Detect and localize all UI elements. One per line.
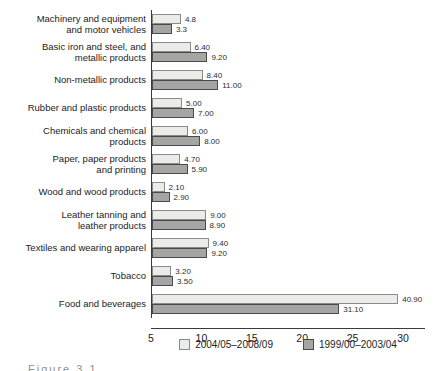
bar-value-label: 8.90 <box>210 221 226 230</box>
bar-value-label: 8.40 <box>207 71 223 80</box>
bar-series1 <box>152 238 209 248</box>
plot-cell: 4.705.90 <box>151 150 434 178</box>
bar-value-label: 6.40 <box>195 43 211 52</box>
bar-value-label: 9.40 <box>213 239 229 248</box>
chart-area: Machinery and equipmentand motor vehicle… <box>0 10 434 318</box>
category-label: Rubber and plastic products <box>0 102 151 114</box>
bar-value-label: 5.90 <box>192 165 208 174</box>
bar-series1 <box>152 42 191 52</box>
bar-line: 3.3 <box>152 24 434 34</box>
category-label: Leather tanning andleather products <box>0 209 151 232</box>
bar-line: 6.00 <box>152 126 434 136</box>
category-row: Food and beverages40.9031.10 <box>0 290 434 318</box>
legend-label: 2004/05–2008/09 <box>195 339 273 350</box>
bar-series1 <box>152 266 171 276</box>
bar-value-label: 8.00 <box>204 137 220 146</box>
bar-series1 <box>152 154 180 164</box>
category-row: Paper, paper productsand printing4.705.9… <box>0 150 434 178</box>
category-label: Textiles and wearing apparel <box>0 242 151 254</box>
chart-rows: Machinery and equipmentand motor vehicle… <box>0 10 434 318</box>
bar-value-label: 5.00 <box>186 99 202 108</box>
bar-value-label: 4.8 <box>185 15 196 24</box>
category-row: Machinery and equipmentand motor vehicle… <box>0 10 434 38</box>
legend-item: 1999/00–2003/04 <box>303 339 397 350</box>
category-label: Non-metallic products <box>0 74 151 86</box>
bar-value-label: 2.90 <box>174 193 190 202</box>
category-label: Machinery and equipmentand motor vehicle… <box>0 13 151 36</box>
plot-cell: 9.008.90 <box>151 206 434 234</box>
legend-label: 1999/00–2003/04 <box>319 339 397 350</box>
bar-value-label: 3.3 <box>176 25 187 34</box>
category-row: Rubber and plastic products5.007.00 <box>0 94 434 122</box>
bar-series2 <box>152 24 172 34</box>
bar-series2 <box>152 108 194 118</box>
category-row: Non-metallic products8.4011.00 <box>0 66 434 94</box>
bar-value-label: 4.70 <box>184 155 200 164</box>
bar-value-label: 31.10 <box>343 305 363 314</box>
category-row: Basic iron and steel, andmetallic produc… <box>0 38 434 66</box>
bar-line: 9.40 <box>152 238 434 248</box>
plot-cell: 40.9031.10 <box>151 290 434 318</box>
plot-cell: 2.102.90 <box>151 178 434 206</box>
bar-value-label: 2.10 <box>169 183 185 192</box>
plot-cell: 3.203.50 <box>151 262 434 290</box>
chart-legend: 2004/05–2008/091999/00–2003/04 <box>151 339 425 350</box>
bar-series2 <box>152 52 207 62</box>
bar-line: 6.40 <box>152 42 434 52</box>
bar-line: 7.00 <box>152 108 434 118</box>
bar-value-label: 11.00 <box>222 81 241 90</box>
bar-line: 2.10 <box>152 182 434 192</box>
bar-value-label: 6.00 <box>192 127 208 136</box>
bar-series1 <box>152 182 165 192</box>
bar-series2 <box>152 220 206 230</box>
bar-value-label: 9.20 <box>211 53 227 62</box>
bar-line: 2.90 <box>152 192 434 202</box>
category-label: Food and beverages <box>0 298 151 310</box>
bar-series2 <box>152 136 200 146</box>
bar-line: 5.00 <box>152 98 434 108</box>
bar-series2 <box>152 192 170 202</box>
plot-cell: 6.008.00 <box>151 122 434 150</box>
cut-off-caption: Figure 3.1 <box>28 363 428 371</box>
bar-chart-figure: Machinery and equipmentand motor vehicle… <box>0 0 434 371</box>
bar-line: 3.20 <box>152 266 434 276</box>
bar-line: 8.90 <box>152 220 434 230</box>
bar-value-label: 3.20 <box>175 267 191 276</box>
category-row: Wood and wood products2.102.90 <box>0 178 434 206</box>
bar-line: 31.10 <box>152 304 434 314</box>
bar-series2 <box>152 164 188 174</box>
bar-series1 <box>152 210 206 220</box>
bar-series1 <box>152 98 182 108</box>
bar-line: 40.90 <box>152 294 434 304</box>
category-label: Chemicals and chemicalproducts <box>0 125 151 148</box>
category-label: Wood and wood products <box>0 186 151 198</box>
bar-series1 <box>152 14 181 24</box>
plot-cell: 4.83.3 <box>151 10 434 38</box>
bar-line: 4.70 <box>152 154 434 164</box>
legend-swatch-icon <box>303 339 314 350</box>
bar-value-label: 9.00 <box>210 211 226 220</box>
bar-line: 4.8 <box>152 14 434 24</box>
plot-cell: 5.007.00 <box>151 94 434 122</box>
bar-series2 <box>152 248 207 258</box>
plot-cell: 8.4011.00 <box>151 66 434 94</box>
bar-line: 11.00 <box>152 80 434 90</box>
bar-series1 <box>152 126 188 136</box>
category-row: Tobacco3.203.50 <box>0 262 434 290</box>
bar-line: 9.00 <box>152 210 434 220</box>
bar-value-label: 7.00 <box>198 109 214 118</box>
bar-series1 <box>152 294 398 304</box>
bar-value-label: 40.90 <box>402 295 422 304</box>
category-label: Paper, paper productsand printing <box>0 153 151 176</box>
bar-series2 <box>152 304 339 314</box>
bar-line: 8.40 <box>152 70 434 80</box>
bar-series2 <box>152 276 173 286</box>
category-row: Chemicals and chemicalproducts6.008.00 <box>0 122 434 150</box>
bar-series1 <box>152 70 203 80</box>
category-row: Leather tanning andleather products9.008… <box>0 206 434 234</box>
category-label: Tobacco <box>0 270 151 282</box>
bar-line: 9.20 <box>152 52 434 62</box>
plot-cell: 9.409.20 <box>151 234 434 262</box>
legend-item: 2004/05–2008/09 <box>179 339 273 350</box>
bar-line: 8.00 <box>152 136 434 146</box>
